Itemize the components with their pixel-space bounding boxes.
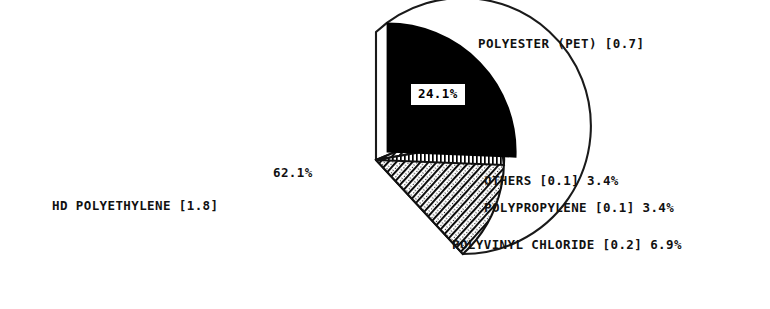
pie-chart: POLYESTER (PET) [0.7] OTHERS [0.1] 3.4% … (0, 0, 770, 309)
slice-label-polyvinyl-chloride: POLYVINYL CHLORIDE [0.2] 6.9% (452, 239, 682, 252)
slice-label-polypropylene: POLYPROPYLENE [0.1] 3.4% (484, 202, 674, 215)
slice-percent-hd-polyethylene: 62.1% (273, 167, 313, 180)
slice-label-polyester: POLYESTER (PET) [0.7] (478, 38, 644, 51)
slice-label-hd-polyethylene: HD POLYETHYLENE [1.8] (52, 200, 218, 213)
slice-label-others: OTHERS [0.1] 3.4% (484, 175, 619, 188)
pie-chart-graphic (0, 0, 770, 309)
slice-percent-polyester: 24.1% (411, 84, 465, 105)
